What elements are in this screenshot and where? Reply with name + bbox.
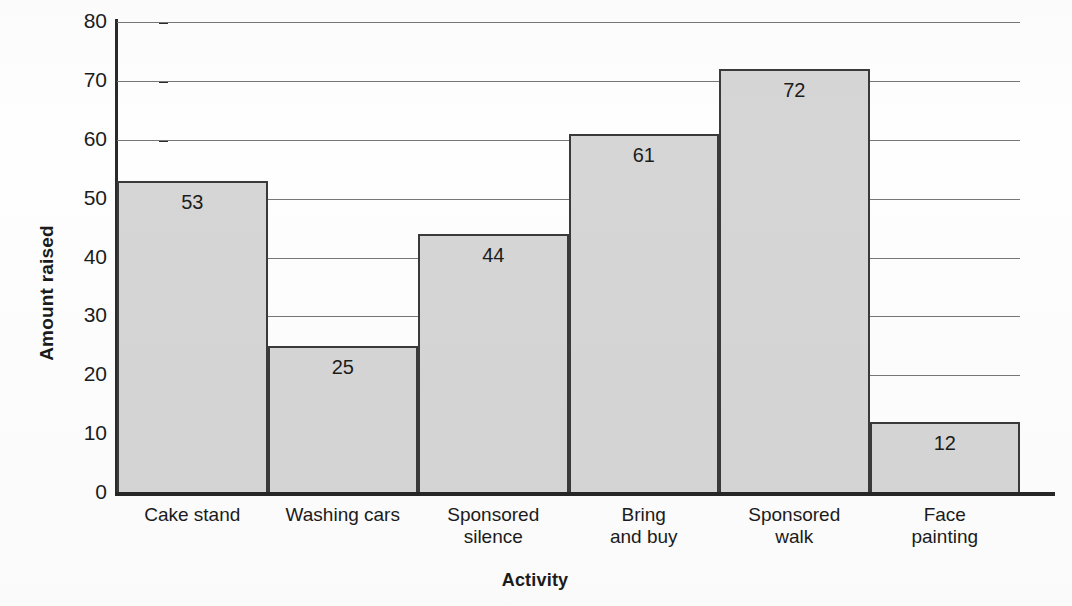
bar-chart-figure: Amount raised 01020304050607080 53254461…: [0, 0, 1072, 606]
y-axis-tick-label: 30: [63, 304, 107, 325]
y-axis-tick-label: 60: [63, 128, 107, 149]
bar: 25: [268, 346, 419, 493]
y-axis-tick-label: 10: [63, 422, 107, 443]
category-label: Facepainting: [870, 504, 1021, 549]
category-label-line: Washing cars: [268, 504, 419, 526]
category-label-line: Face: [870, 504, 1021, 526]
category-label-line: painting: [870, 526, 1021, 548]
bar-value-label: 25: [270, 357, 417, 378]
y-axis-tick-label: 80: [63, 10, 107, 31]
bar-value-label: 72: [721, 80, 868, 101]
category-label: Sponsoredwalk: [719, 504, 870, 549]
bar: 53: [117, 181, 268, 493]
bar-value-label: 12: [872, 433, 1019, 454]
category-label: Washing cars: [268, 504, 419, 526]
category-label-line: walk: [719, 526, 870, 548]
y-axis-tick-label: 70: [63, 69, 107, 90]
gridline: [117, 81, 1020, 82]
category-label-line: Cake stand: [117, 504, 268, 526]
bar-value-label: 53: [119, 192, 266, 213]
bar: 44: [418, 234, 569, 493]
bar-value-label: 61: [571, 145, 718, 166]
y-axis-tick-label: 0: [63, 481, 107, 502]
category-label: Sponsoredsilence: [418, 504, 569, 549]
y-axis-tick-label: 20: [63, 363, 107, 384]
x-axis-line: [115, 492, 1055, 496]
category-label-line: and buy: [569, 526, 720, 548]
bar-value-label: 44: [420, 245, 567, 266]
category-label: Bringand buy: [569, 504, 720, 549]
y-axis-tick-label: 40: [63, 246, 107, 267]
category-label-line: silence: [418, 526, 569, 548]
category-label-line: Bring: [569, 504, 720, 526]
x-axis-title: Activity: [455, 570, 615, 591]
y-axis-tick-labels: 01020304050607080: [52, 0, 107, 606]
category-label-line: Sponsored: [719, 504, 870, 526]
category-label-line: Sponsored: [418, 504, 569, 526]
category-label: Cake stand: [117, 504, 268, 526]
plot-area: 532544617212: [117, 22, 1020, 493]
bar: 12: [870, 422, 1021, 493]
bar: 72: [719, 69, 870, 493]
y-axis-tick-label: 50: [63, 187, 107, 208]
bar: 61: [569, 134, 720, 493]
gridline: [117, 22, 1020, 23]
